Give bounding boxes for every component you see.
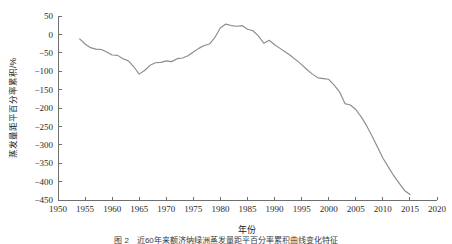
x-tick-label: 1970 [157,204,176,214]
y-tick-label: −150 [34,85,53,95]
x-tick-label: 1955 [76,204,95,214]
y-tick-label: 50 [44,11,54,21]
y-tick-label: 0 [49,30,54,40]
x-tick-label: 1995 [293,204,312,214]
y-axis-title: 蒸发量距平百分率累积/% [8,58,18,158]
x-tick-label: 2000 [320,204,339,214]
x-tick-label: 2020 [428,204,447,214]
figure-root: 500−50−100−150−200−250−300−350−400−45019… [0,0,452,244]
y-tick-label: −300 [34,140,53,150]
x-tick-label: 1990 [266,204,285,214]
x-tick-label: 2010 [374,204,393,214]
x-tick-label: 1960 [103,204,122,214]
y-tick-label: −200 [34,103,53,113]
x-tick-label: 2015 [401,204,420,214]
y-tick-label: −250 [34,122,53,132]
x-tick-label: 1975 [184,204,203,214]
x-tick-label: 1950 [49,204,68,214]
y-tick-label: −400 [34,177,53,187]
figure-caption: 图 2 近60年来额济纳绿洲蒸发量距平百分率累积曲线变化特征 [0,236,452,244]
y-tick-label: −50 [39,48,54,58]
y-tick-label: −350 [34,158,53,168]
x-axis-title: 年份 [238,224,256,235]
line-chart: 500−50−100−150−200−250−300−350−400−45019… [0,0,452,244]
x-tick-label: 2005 [347,204,366,214]
x-tick-label: 1980 [211,204,230,214]
x-tick-label: 1985 [239,204,258,214]
y-tick-label: −100 [34,66,53,76]
x-tick-label: 1965 [130,204,149,214]
